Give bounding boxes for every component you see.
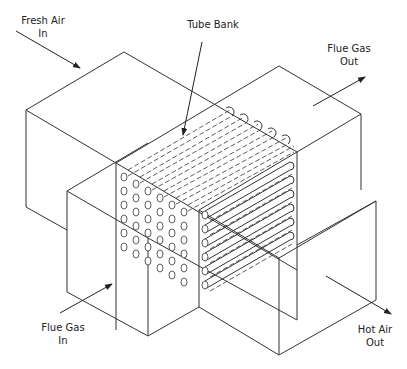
flue-gas-outlet-duct	[116, 66, 361, 190]
label-hot-air-out: Hot Air Out	[350, 323, 400, 349]
label-flue-gas-in: Flue Gas In	[38, 321, 88, 347]
label-tube-bank: Tube Bank	[178, 18, 248, 31]
tube-holes-left-face	[121, 173, 187, 286]
hot-air-out-arrow	[326, 276, 391, 314]
tube-bank	[121, 107, 294, 291]
label-flue-gas-out: Flue Gas Out	[324, 42, 374, 68]
flue-gas-in-arrow	[60, 284, 112, 313]
label-fresh-air-in: Fresh Air In	[18, 14, 68, 40]
tube-bank-pointer-arrow	[183, 42, 202, 135]
